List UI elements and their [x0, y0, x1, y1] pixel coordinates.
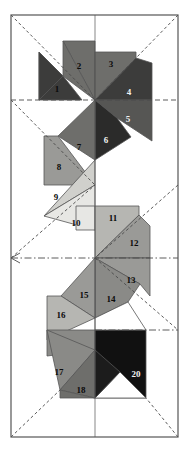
tile-label-17: 17 [55, 367, 65, 377]
tile-label-5: 5 [126, 114, 131, 124]
tile-label-13: 13 [127, 275, 137, 285]
tile-label-20: 20 [132, 369, 142, 379]
tiles-layer [39, 41, 152, 398]
tile-label-3: 3 [109, 59, 114, 69]
tile-label-16: 16 [57, 310, 67, 320]
tile-label-2: 2 [77, 61, 82, 71]
tile-label-10: 10 [72, 218, 82, 228]
tile-label-1: 1 [55, 84, 60, 94]
tile-label-12: 12 [130, 238, 140, 248]
tile-label-11: 11 [109, 213, 118, 223]
tile-label-9: 9 [54, 192, 59, 202]
tile-label-18: 18 [77, 385, 87, 395]
tile-label-7: 7 [77, 142, 82, 152]
tile-label-15: 15 [80, 290, 90, 300]
tile-label-8: 8 [57, 162, 62, 172]
geometric-tiling-figure: 1 2 3 4 5 6 7 8 9 10 11 12 13 14 15 16 1… [0, 0, 188, 457]
tile-label-14: 14 [107, 294, 117, 304]
tile-label-6: 6 [104, 135, 109, 145]
tile-label-4: 4 [127, 87, 132, 97]
tiling-svg: 1 2 3 4 5 6 7 8 9 10 11 12 13 14 15 16 1… [0, 0, 188, 457]
